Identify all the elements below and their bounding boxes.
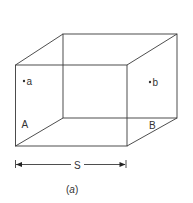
- point-a-label: a: [27, 76, 33, 87]
- dimension-label: S: [74, 160, 81, 171]
- front-face: [16, 65, 128, 146]
- point-b-label: b: [153, 77, 159, 88]
- box-diagram: a b A B S (a): [0, 0, 193, 203]
- arrowhead-right-icon: [120, 162, 126, 167]
- face-a-label: A: [22, 119, 29, 130]
- dimension-arrow: [16, 160, 127, 168]
- point-a-dot: [23, 80, 25, 82]
- edge-top-left: [16, 34, 64, 65]
- face-b-label: B: [149, 120, 156, 131]
- figure-caption: (a): [66, 184, 78, 195]
- back-face: [63, 34, 177, 118]
- point-b-dot: [149, 81, 151, 83]
- edge-top-right: [127, 34, 177, 65]
- arrowhead-left-icon: [16, 162, 22, 167]
